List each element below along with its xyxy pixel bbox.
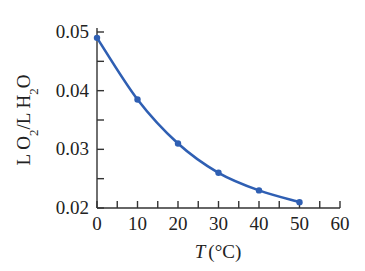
x-tick-label: 60 xyxy=(331,213,350,234)
data-point xyxy=(94,35,100,41)
data-point xyxy=(296,199,302,205)
y-axis-title: L O2/L H2O xyxy=(13,75,41,166)
data-point xyxy=(175,140,181,146)
x-axis-title: T(°C) xyxy=(195,241,242,263)
y-tick-label: 0.02 xyxy=(56,197,89,218)
x-tick-label: 20 xyxy=(169,213,188,234)
data-point xyxy=(256,187,262,193)
data-point xyxy=(134,96,140,102)
y-tick-label: 0.04 xyxy=(56,80,90,101)
axes xyxy=(97,28,340,208)
data-points xyxy=(94,35,303,206)
chart: 0.020.030.040.05 0102030405060 T(°C) L O… xyxy=(0,0,365,271)
data-line xyxy=(97,38,300,202)
x-tick-labels: 0102030405060 xyxy=(92,213,349,234)
y-tick-label: 0.03 xyxy=(56,138,89,159)
data-point xyxy=(215,170,221,176)
x-tick-label: 50 xyxy=(290,213,309,234)
y-tick-labels: 0.020.030.040.05 xyxy=(56,21,90,218)
x-tick-label: 40 xyxy=(250,213,269,234)
y-tick-label: 0.05 xyxy=(56,21,89,42)
x-tick-label: 0 xyxy=(92,213,102,234)
x-tick-label: 10 xyxy=(128,213,147,234)
x-tick-label: 30 xyxy=(209,213,228,234)
